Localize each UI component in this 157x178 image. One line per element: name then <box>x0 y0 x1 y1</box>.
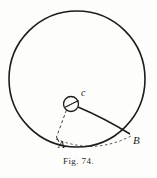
large-circle <box>9 11 145 147</box>
figure-caption: Fig. 74. <box>0 156 157 166</box>
figure-drawing: c A B <box>0 0 157 178</box>
hub-inner-mark <box>67 103 74 107</box>
label-b: B <box>133 134 140 146</box>
label-c: c <box>81 87 86 98</box>
label-a: A <box>57 138 65 150</box>
figure-container: c A B Fig. 74. <box>0 0 157 178</box>
dashed-radius-c-to-a <box>57 110 67 137</box>
solid-curve-c-to-b <box>78 107 130 134</box>
